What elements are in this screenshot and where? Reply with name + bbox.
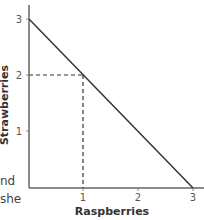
- y-tick-1: 1: [16, 126, 22, 137]
- ppf-line: [29, 19, 193, 188]
- y-tick-3: 3: [16, 14, 22, 25]
- x-tick-3: 3: [190, 192, 196, 203]
- x-axis-label: Raspberries: [75, 205, 150, 218]
- ppf-chart: 3 2 1 1 2 3 Raspberries Strawberries: [0, 0, 204, 220]
- cropped-text-fragment-1: nd: [0, 174, 15, 188]
- x-tick-2: 2: [135, 192, 141, 203]
- y-axis-label: Strawberries: [0, 64, 11, 145]
- x-tick-1: 1: [80, 192, 86, 203]
- y-tick-2: 2: [16, 70, 22, 81]
- cropped-text-fragment-2: she: [0, 192, 21, 206]
